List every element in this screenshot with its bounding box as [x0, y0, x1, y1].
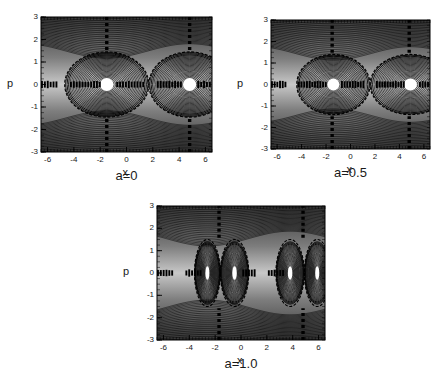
y-tick-label: 3 [137, 201, 154, 210]
x-tick-label: 0 [231, 343, 251, 352]
x-tick-label: -6 [153, 343, 173, 352]
elliptic-point-0 [205, 266, 209, 279]
x-tick-label: -2 [205, 343, 225, 352]
plot-area-2 [156, 205, 326, 341]
y-tick-label: 1 [137, 246, 154, 255]
x-tick-label: 6 [309, 343, 329, 352]
elliptic-point-2 [288, 266, 293, 279]
contour-panel-2: -6-4-20246-3-2-10123pxa=1.0 [0, 0, 445, 390]
y-axis-label: p [123, 265, 129, 277]
elliptic-point-3 [315, 266, 319, 279]
y-tick-label: 2 [137, 223, 154, 232]
y-tick-label: -3 [137, 335, 154, 344]
y-tick-label: 0 [137, 268, 154, 277]
x-tick-label: 2 [257, 343, 277, 352]
y-tick-label: -1 [137, 290, 154, 299]
elliptic-point-1 [232, 266, 237, 279]
y-tick-label: -2 [137, 313, 154, 322]
x-tick-label: 4 [283, 343, 303, 352]
panel-caption: a=1.0 [201, 356, 281, 371]
x-tick-label: -4 [179, 343, 199, 352]
